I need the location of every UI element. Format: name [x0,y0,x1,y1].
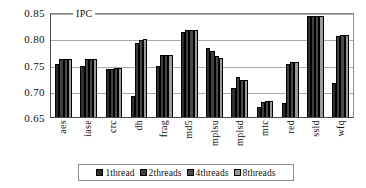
x-axis-tick-label: red [286,120,296,134]
bar-group [51,14,76,117]
bar [118,68,122,117]
bar [219,58,223,117]
bars-layer [51,14,353,117]
x-axis-tick-label: crc [108,120,118,133]
chart-title: IPC [73,8,95,19]
bar-group [303,14,328,117]
x-axis-tick: frag [151,120,176,162]
bar [294,62,298,117]
bar-group [202,14,227,117]
bar [194,30,198,117]
bar-group [152,14,177,117]
bar [68,59,72,117]
legend-label: 8threads [243,168,276,178]
chart-legend: 1thread2threads4threads8threads [78,164,294,181]
ipc-bar-chart: 0.650.700.750.800.85 IPC aesiasecrcdhfra… [0,0,366,188]
x-axis-tick-label: mplsu [210,120,220,146]
x-axis-tick-label: ssld [311,120,321,137]
legend-item: 2threads [140,168,182,178]
x-axis-tick: mtc [253,120,278,162]
legend-item: 1thread [96,168,134,178]
x-axis-tick: md5 [177,120,202,162]
bar-group [101,14,126,117]
x-axis-tick-label: md5 [184,120,194,139]
legend-label: 1thread [105,168,134,178]
x-axis-tick-label: dh [134,120,144,131]
bar [269,101,273,117]
x-axis-tick: ssld [303,120,328,162]
x-axis-tick: mplsu [202,120,227,162]
x-axis: aesiasecrcdhfragmd5mplsumplsdmtcredssldw… [50,120,354,162]
x-axis-tick: wfq [329,120,354,162]
bar [168,55,172,117]
legend-swatch-icon [187,169,194,176]
legend-label: 2threads [149,168,182,178]
x-axis-tick-label: mplsd [235,120,245,146]
legend-item: 4threads [187,168,229,178]
x-axis-tick-label: iase [83,120,93,137]
bar-group [177,14,202,117]
bar-group [127,14,152,117]
x-axis-tick-label: mtc [260,120,270,136]
y-axis-tick-label: 0.80 [24,34,45,45]
x-axis-tick: red [278,120,303,162]
y-axis-tick-label: 0.85 [24,8,45,19]
x-axis-tick: iase [75,120,100,162]
y-axis-tick-label: 0.65 [24,113,45,124]
bar-group [278,14,303,117]
y-axis-tick-label: 0.70 [24,86,45,97]
legend-swatch-icon [234,169,241,176]
bar-group [76,14,101,117]
plot-area: IPC [50,13,354,118]
legend-item: 8threads [234,168,276,178]
x-axis-tick: mplsd [227,120,252,162]
legend-swatch-icon [140,169,147,176]
x-axis-tick: dh [126,120,151,162]
legend-label: 4threads [196,168,229,178]
x-axis-tick-label: aes [58,120,68,134]
bar [319,16,323,117]
bar [244,80,248,117]
bar-group [252,14,277,117]
x-axis-tick: crc [101,120,126,162]
x-axis-tick: aes [50,120,75,162]
bar-group [328,14,353,117]
bar [93,59,97,117]
x-axis-tick-label: wfq [336,120,346,136]
bar [143,39,147,117]
y-axis-tick-label: 0.75 [24,60,45,71]
legend-swatch-icon [96,169,103,176]
bar-group [227,14,252,117]
bar [345,35,349,117]
x-axis-tick-label: frag [159,120,169,137]
y-axis: 0.650.700.750.800.85 [0,8,48,122]
